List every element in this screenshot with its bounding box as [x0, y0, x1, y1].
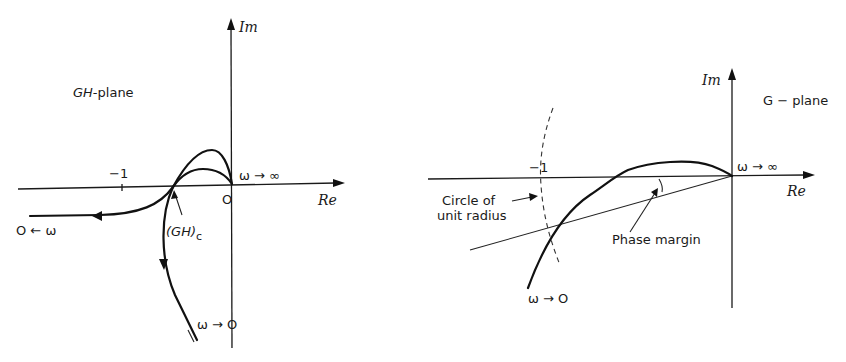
circle-pointer-arrow-icon	[529, 193, 538, 201]
re-axis-arrow-icon	[333, 179, 345, 187]
re-axis	[18, 183, 336, 189]
circle-pointer-line	[512, 197, 532, 201]
im-axis-label: Im	[701, 72, 721, 88]
minus-one-label: −1	[109, 166, 128, 181]
omega-to-zero-label: ω → O	[197, 317, 237, 332]
nyquist-diagrams: Im Re −1 O GH-plane O ← ω ω → O ω → ∞ (G…	[0, 0, 846, 362]
circle-label-line2: unit radius	[437, 208, 507, 223]
minus-one-label: −1	[529, 160, 548, 175]
phase-margin-arrow-icon	[651, 188, 658, 197]
im-axis-arrow-icon	[227, 18, 235, 30]
zero-from-omega-label: O ← ω	[16, 223, 56, 238]
im-axis	[231, 26, 232, 348]
circle-label-line1: Circle of	[442, 193, 496, 208]
phase-margin-arc	[659, 179, 662, 192]
omega-to-infinity-label: ω → ∞	[737, 159, 778, 174]
phase-margin-pointer-line	[630, 193, 655, 232]
im-axis-label: Im	[238, 19, 258, 35]
plane-label: GH-plane	[73, 85, 134, 100]
g-plane-diagram: Im G − plane Re −1 Circle of unit radius…	[428, 68, 828, 308]
omega-to-zero-label: ω → O	[528, 291, 568, 306]
phase-margin-label: Phase margin	[612, 232, 701, 247]
origin-label: O	[222, 192, 232, 207]
re-axis-label: Re	[317, 192, 337, 208]
plane-label: G − plane	[763, 93, 828, 108]
left-branch-arrow-icon	[92, 211, 102, 221]
critical-point-label: (GH)c	[166, 224, 202, 243]
re-axis-arrow-icon	[803, 171, 815, 179]
omega-to-infinity-label: ω → ∞	[239, 168, 280, 183]
re-axis-label: Re	[786, 183, 806, 199]
im-axis-arrow-icon	[728, 68, 736, 80]
gh-plane-diagram: Im Re −1 O GH-plane O ← ω ω → O ω → ∞ (G…	[16, 18, 345, 348]
